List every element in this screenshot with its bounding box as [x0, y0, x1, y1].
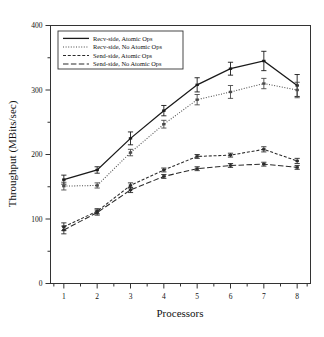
data-point-marker: [229, 68, 232, 70]
data-point-marker: [262, 148, 265, 150]
data-point-marker: [95, 184, 98, 186]
data-point-marker: [129, 137, 132, 139]
data-point-marker: [295, 160, 298, 162]
x-axis-tick-label: 5: [195, 292, 199, 301]
chart-container: 0100200300400 12345678 Recv-side, Atomic…: [0, 0, 324, 337]
x-axis-tick-label: 8: [295, 292, 299, 301]
data-point-marker: [195, 84, 198, 86]
y-axis-tick-label: 0: [39, 279, 43, 288]
data-point-marker: [62, 229, 65, 231]
data-point-marker: [95, 211, 98, 213]
data-point-marker: [129, 189, 132, 191]
legend-label-2: Recv-side, No Atomic Ops: [93, 43, 162, 50]
legend-label-3: Send-side, Atomic Ops: [93, 52, 153, 59]
throughput-line-chart: 0100200300400 12345678 Recv-side, Atomic…: [0, 0, 324, 337]
x-axis-tick-label: 7: [262, 292, 266, 301]
legend-label-1: Recv-side, Atomic Ops: [93, 35, 153, 42]
data-point-marker: [195, 167, 198, 169]
x-axis-ticks: 12345678: [54, 284, 307, 301]
x-axis-tick-label: 1: [62, 292, 66, 301]
x-axis-tick-label: 2: [95, 292, 99, 301]
data-point-marker: [129, 151, 132, 153]
y-axis-tick-label: 200: [31, 150, 43, 159]
data-point-marker: [262, 82, 265, 84]
data-point-marker: [262, 60, 265, 62]
data-point-marker: [62, 185, 65, 187]
data-point-marker: [162, 123, 165, 125]
x-axis-title: Processors: [156, 307, 203, 319]
y-axis-title: Throughput (MBits/sec): [6, 100, 19, 207]
data-point-marker: [129, 184, 132, 186]
data-point-marker: [162, 175, 165, 177]
x-axis-tick-label: 4: [162, 292, 166, 301]
data-point-marker: [295, 166, 298, 168]
y-axis-tick-label: 100: [31, 215, 43, 224]
legend-label-4: Send-side, No Atomic Ops: [93, 60, 162, 67]
y-axis-ticks: 0100200300400: [31, 21, 50, 288]
data-point-marker: [162, 169, 165, 171]
data-point-marker: [195, 98, 198, 100]
data-point-marker: [229, 164, 232, 166]
y-axis-tick-label: 300: [31, 86, 43, 95]
y-axis-tick-label: 400: [31, 21, 43, 30]
data-point-marker: [295, 89, 298, 91]
data-point-marker: [195, 155, 198, 157]
data-point-marker: [162, 109, 165, 111]
chart-legend: Recv-side, Atomic OpsRecv-side, No Atomi…: [58, 31, 183, 69]
data-point-marker: [229, 91, 232, 93]
x-axis-tick-label: 6: [229, 292, 233, 301]
data-point-marker: [95, 169, 98, 171]
data-point-marker: [262, 163, 265, 165]
data-point-marker: [62, 178, 65, 180]
data-point-marker: [229, 154, 232, 156]
x-axis-tick-label: 3: [129, 292, 133, 301]
